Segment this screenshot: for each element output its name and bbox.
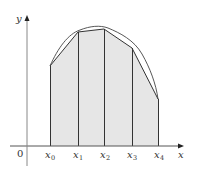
tick-label-x2: x 2 xyxy=(100,149,110,162)
svg-text:0: 0 xyxy=(51,154,55,162)
x-axis-label: x xyxy=(178,149,184,160)
svg-text:3: 3 xyxy=(133,154,137,162)
tick-label-x3: x 3 xyxy=(127,149,137,162)
svg-text:1: 1 xyxy=(79,154,83,162)
svg-text:2: 2 xyxy=(106,154,110,162)
tick-label-x4: x 4 xyxy=(154,149,164,162)
y-axis-label: y xyxy=(15,13,22,24)
x-axis-arrow-icon xyxy=(178,144,184,149)
tick-label-x0: x 0 xyxy=(45,149,55,162)
trapezoid-diagram: y x 0 x 0 x 1 x 2 x 3 x 4 xyxy=(0,0,198,174)
svg-text:4: 4 xyxy=(160,154,164,162)
y-axis-arrow-icon xyxy=(25,15,30,21)
tick-label-x1: x 1 xyxy=(73,149,83,162)
origin-label: 0 xyxy=(17,148,23,159)
